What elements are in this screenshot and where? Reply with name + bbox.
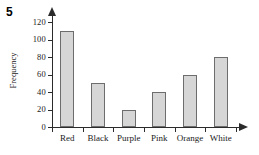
y-axis-tick [48,57,53,58]
x-axis-tick [83,127,84,132]
bar-orange [183,75,197,127]
y-axis-tick-label: 80 [37,53,46,62]
y-axis-tick-label: 100 [33,35,46,44]
y-axis-tick-label: 20 [37,105,46,114]
y-axis-tick-label: 40 [37,88,46,97]
bar-white [214,57,228,127]
figure: 5 Frequency 020406080100120 RedBlackPurp… [0,0,259,155]
x-axis-tick [52,127,53,132]
y-axis-arrow-icon [48,7,56,16]
y-axis-tick [48,75,53,76]
bar-chart-plot-area: Frequency 020406080100120 RedBlackPurple… [0,0,259,155]
y-axis-tick-label: 60 [37,70,46,79]
y-axis-tick [48,92,53,93]
x-axis-tick [175,127,176,132]
x-axis-tick [236,127,237,132]
x-axis-label-white: White [199,133,242,143]
bar-red [60,31,74,127]
x-axis-tick [144,127,145,132]
bar-black [91,83,105,127]
y-axis-tick-label: 0 [42,123,46,132]
y-axis-tick-label: 120 [33,18,46,27]
x-axis-tick [205,127,206,132]
y-axis-title: Frequency [9,40,18,102]
bar-pink [152,92,166,127]
y-axis-tick [48,40,53,41]
x-axis-line [52,127,240,128]
bar-purple [122,110,136,127]
y-axis-tick [48,22,53,23]
x-axis-tick [113,127,114,132]
x-axis-arrow-icon [239,123,248,131]
y-axis-line [52,14,53,128]
y-axis-tick [48,110,53,111]
